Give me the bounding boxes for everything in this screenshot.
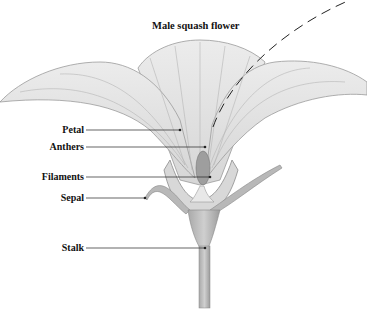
label-petal: Petal	[0, 124, 84, 135]
label-stalk: Stalk	[0, 242, 84, 253]
label-filaments: Filaments	[0, 171, 84, 182]
stalk	[199, 246, 210, 308]
diagram-title: Male squash flower	[152, 20, 240, 31]
anthers	[196, 151, 210, 185]
filaments	[190, 186, 214, 202]
label-anthers: Anthers	[0, 141, 84, 152]
flower-illustration	[0, 0, 367, 314]
flower-diagram: Male squash flower Petal Anthers Filamen…	[0, 0, 367, 314]
label-sepal: Sepal	[0, 192, 84, 203]
receptacle	[188, 210, 220, 248]
